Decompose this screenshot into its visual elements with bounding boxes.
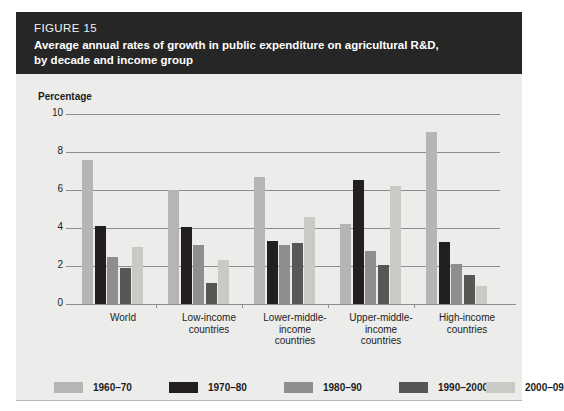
legend-swatch bbox=[54, 382, 83, 393]
y-axis-tick-label: 4 bbox=[57, 221, 63, 232]
legend-item[interactable]: 1960–70 bbox=[54, 382, 132, 393]
legend-item[interactable]: 1980–90 bbox=[284, 382, 362, 393]
bar bbox=[193, 245, 204, 304]
y-axis-tick-label: 8 bbox=[57, 145, 63, 156]
legend-label: 1990–2000 bbox=[438, 382, 488, 393]
bar bbox=[439, 242, 450, 304]
bar bbox=[292, 243, 303, 304]
legend-swatch bbox=[486, 382, 515, 393]
x-axis-category-label-line: High-income bbox=[407, 312, 527, 324]
figure-card: FIGURE 15 Average annual rates of growth… bbox=[16, 12, 522, 400]
y-axis-tick-label: 2 bbox=[57, 259, 63, 270]
bar bbox=[168, 190, 179, 304]
y-axis-unit-label: Percentage bbox=[38, 91, 92, 102]
bar bbox=[304, 217, 315, 304]
legend-label: 1960–70 bbox=[93, 382, 132, 393]
x-axis-category-label: High-incomecountries bbox=[407, 312, 527, 335]
bar-group bbox=[340, 114, 426, 304]
figure-title: Average annual rates of growth in public… bbox=[34, 38, 484, 67]
bar-group bbox=[82, 114, 168, 304]
bar bbox=[353, 180, 364, 304]
y-axis-tick-mark bbox=[66, 228, 70, 229]
bar bbox=[340, 224, 351, 304]
footer-rule bbox=[16, 400, 522, 401]
y-axis-tick-label: 10 bbox=[52, 107, 63, 118]
bar bbox=[95, 226, 106, 304]
category-separator-tick bbox=[156, 304, 157, 308]
bar bbox=[218, 260, 229, 304]
bar bbox=[365, 251, 376, 304]
legend-swatch bbox=[284, 382, 313, 393]
figure-title-line-1: Average annual rates of growth in public… bbox=[34, 39, 439, 51]
bar bbox=[464, 275, 475, 304]
bar bbox=[82, 160, 93, 304]
legend-label: 1970–80 bbox=[208, 382, 247, 393]
legend-label: 1980–90 bbox=[323, 382, 362, 393]
figure-number: FIGURE 15 bbox=[34, 21, 522, 36]
chart-legend: 1960–701970–801980–901990–20002000–09 bbox=[16, 374, 522, 400]
bar bbox=[181, 227, 192, 304]
chart-area: Percentage 0246810 WorldLow-incomecountr… bbox=[16, 74, 522, 374]
legend-label: 2000–09 bbox=[525, 382, 564, 393]
category-separator-tick bbox=[414, 304, 415, 308]
bar bbox=[451, 264, 462, 304]
bar bbox=[107, 257, 118, 304]
legend-item[interactable]: 1970–80 bbox=[169, 382, 247, 393]
category-separator-tick bbox=[242, 304, 243, 308]
bar-group bbox=[168, 114, 254, 304]
bar bbox=[476, 286, 487, 304]
category-separator-tick bbox=[328, 304, 329, 308]
bar bbox=[132, 247, 143, 304]
bar bbox=[378, 265, 389, 304]
bar bbox=[254, 177, 265, 304]
bar bbox=[267, 241, 278, 304]
bar bbox=[120, 268, 131, 304]
figure-header-band: FIGURE 15 Average annual rates of growth… bbox=[16, 12, 522, 74]
legend-item[interactable]: 2000–09 bbox=[486, 382, 564, 393]
y-axis-tick-mark bbox=[66, 266, 70, 267]
x-axis-category-label-line: countries bbox=[321, 335, 441, 347]
y-axis-tick-label: 6 bbox=[57, 183, 63, 194]
x-axis-category-label-line: countries bbox=[407, 324, 527, 336]
legend-item[interactable]: 1990–2000 bbox=[399, 382, 488, 393]
bar-group bbox=[254, 114, 340, 304]
y-axis-tick-label: 0 bbox=[57, 297, 63, 308]
y-axis-tick-mark bbox=[66, 114, 70, 115]
plot-region: 0246810 WorldLow-incomecountriesLower-mi… bbox=[70, 114, 500, 304]
legend-swatch bbox=[399, 382, 428, 393]
bar bbox=[279, 245, 290, 304]
y-axis-tick-mark bbox=[66, 190, 70, 191]
y-axis-tick-mark bbox=[66, 152, 70, 153]
bar bbox=[390, 186, 401, 304]
bar-group bbox=[426, 114, 512, 304]
legend-swatch bbox=[169, 382, 198, 393]
figure-title-line-2: by decade and income group bbox=[34, 53, 484, 68]
x-axis-baseline bbox=[70, 304, 516, 305]
bar bbox=[426, 132, 437, 304]
bar bbox=[206, 283, 217, 304]
